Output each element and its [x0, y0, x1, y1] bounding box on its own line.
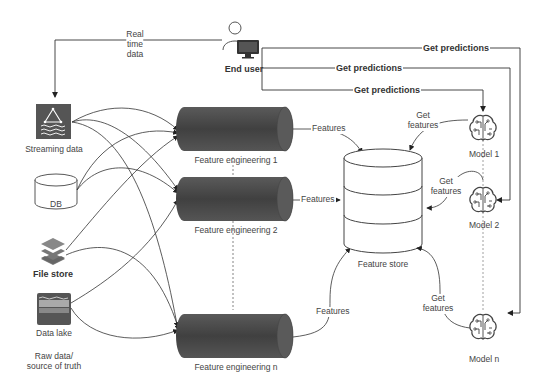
- model-n-label: Model n: [469, 355, 499, 365]
- features-label-n: Features: [315, 307, 351, 317]
- source-label-db: DB: [50, 200, 62, 210]
- fe-1-label: Feature engineering 1: [194, 156, 277, 166]
- streaming-data-icon: [36, 104, 71, 139]
- end-user-icon: [223, 22, 259, 59]
- fe-n-label: Feature engineering n: [194, 363, 277, 373]
- model-1-icon: [470, 115, 496, 140]
- get-features-label-1: Get features: [407, 111, 440, 131]
- feature-engineering-1-cylinder: [176, 107, 293, 151]
- file-store-icon: [41, 238, 65, 265]
- model-n-icon: [470, 314, 496, 339]
- feature-store-label: Feature store: [358, 260, 409, 270]
- get-features-label-n: Get features: [422, 294, 455, 314]
- features-label-1: Features: [311, 124, 347, 134]
- diagram-canvas: [0, 0, 545, 390]
- get-predictions-label-1: Get predictions: [422, 43, 490, 53]
- get-features-label-2: Get features: [430, 177, 463, 197]
- label-line: features: [408, 121, 439, 131]
- get-predictions-label-2: Get predictions: [335, 63, 403, 73]
- caption-line: source of truth: [27, 362, 81, 372]
- data-lake-icon: [37, 293, 71, 325]
- source-label-data-lake: Data lake: [36, 329, 72, 339]
- label-line: features: [431, 187, 462, 197]
- source-label-file-store: File store: [33, 269, 73, 279]
- real-time-data-label: Real time data: [126, 30, 143, 59]
- model-2-label: Model 2: [469, 221, 499, 231]
- feature-engineering-2-cylinder: [176, 177, 293, 221]
- get-predictions-label-3: Get predictions: [353, 85, 421, 95]
- label-line: data: [126, 50, 143, 60]
- model-2-icon: [470, 187, 496, 212]
- feature-store-cylinder: [344, 149, 422, 253]
- end-user-label: End user: [225, 64, 264, 74]
- sources-caption: Raw data/ source of truth: [27, 352, 81, 372]
- label-line: features: [423, 304, 454, 314]
- fe-2-label: Feature engineering 2: [194, 226, 277, 236]
- features-label-2: Features: [300, 195, 336, 205]
- feature-engineering-n-cylinder: [176, 314, 293, 358]
- source-label-streaming: Streaming data: [25, 145, 83, 155]
- model-1-label: Model 1: [469, 150, 499, 160]
